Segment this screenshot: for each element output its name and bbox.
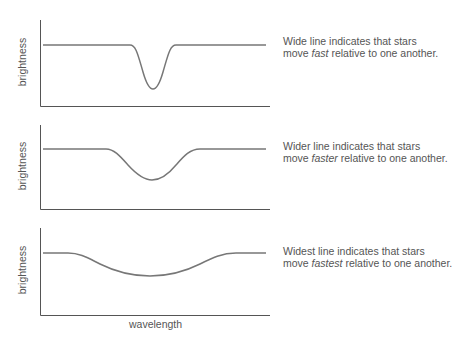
axes-panel-2	[41, 125, 271, 210]
x-axis-label: wavelength	[129, 318, 182, 330]
description-text: relative to one another.	[338, 152, 448, 164]
description-line: Widest line indicates that stars	[283, 245, 452, 257]
y-axis-label-2: brightness	[16, 142, 28, 190]
description-line: Wider line indicates that stars	[283, 140, 448, 152]
axes-panel-3	[41, 228, 271, 316]
description-text: relative to one another.	[343, 257, 453, 269]
emphasis-text: fastest	[312, 257, 343, 269]
description-1: Wide line indicates that stars move fast…	[283, 35, 438, 59]
description-line: move fastest relative to one another.	[283, 257, 452, 269]
description-text: relative to one another.	[329, 47, 439, 59]
description-line: Wide line indicates that stars	[283, 35, 438, 47]
y-axis-label-3: brightness	[16, 246, 28, 294]
description-line: move fast relative to one another.	[283, 47, 438, 59]
description-text: move	[283, 152, 312, 164]
description-line: move faster relative to one another.	[283, 152, 448, 164]
absorption-line-wider	[43, 149, 266, 180]
emphasis-text: fast	[312, 47, 329, 59]
description-text: move	[283, 257, 312, 269]
absorption-line-narrow	[43, 45, 266, 89]
description-3: Widest line indicates that stars move fa…	[283, 245, 452, 269]
absorption-line-widest	[43, 253, 266, 276]
axes-panel-1	[41, 20, 271, 107]
description-2: Wider line indicates that stars move fas…	[283, 140, 448, 164]
y-axis-label-1: brightness	[16, 38, 28, 86]
emphasis-text: faster	[312, 152, 338, 164]
description-text: move	[283, 47, 312, 59]
